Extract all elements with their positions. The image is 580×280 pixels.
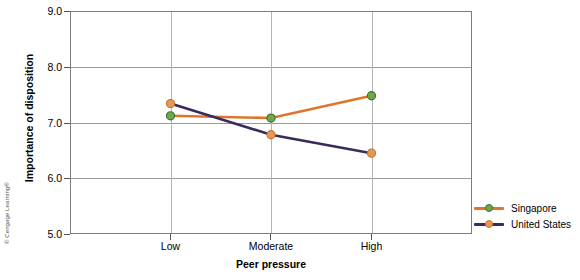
y-tick-label: 9.0 [24,5,62,17]
series-united-states [166,99,375,157]
chart-legend: SingaporeUnited States [474,200,578,232]
line-chart: © Cengage Learning® Importance of dispos… [0,0,580,280]
y-tick-mark [64,234,70,235]
data-series-layer [70,11,472,234]
x-tick-label: Low [161,240,180,252]
x-tick-label: Moderate [249,240,293,252]
y-tick-label: 8.0 [24,61,62,73]
x-tick-label: High [361,240,383,252]
legend-marker-dot [485,204,493,212]
y-tick-mark [64,178,70,179]
y-tick-label: 7.0 [24,117,62,129]
y-tick-label: 6.0 [24,172,62,184]
legend-swatch-icon [474,201,504,215]
data-point-marker [166,112,174,120]
legend-label: Singapore [504,203,557,214]
y-tick-mark [64,11,70,12]
y-tick-label: 5.0 [24,228,62,240]
x-axis-title: Peer pressure [236,258,306,270]
data-point-marker [267,131,275,139]
legend-item-singapore[interactable]: Singapore [474,200,578,216]
series-singapore [166,92,375,123]
legend-marker-dot [485,220,493,228]
y-axis-tick-labels: 5.06.07.08.09.0 [24,0,62,280]
series-line [171,104,372,154]
copyright-credit: © Cengage Learning® [4,174,10,244]
y-tick-mark [64,67,70,68]
data-point-marker [166,99,174,107]
data-point-marker [367,149,375,157]
data-point-marker [367,92,375,100]
legend-item-united-states[interactable]: United States [474,216,578,232]
y-tick-mark [64,123,70,124]
legend-label: United States [504,219,571,230]
legend-swatch-icon [474,217,504,231]
data-point-marker [267,114,275,122]
